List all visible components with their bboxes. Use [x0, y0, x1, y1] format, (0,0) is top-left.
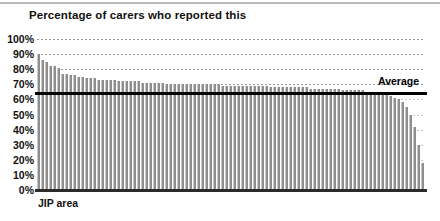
x-axis-baseline — [35, 189, 427, 192]
bar — [169, 84, 172, 190]
bar — [397, 99, 400, 190]
bar — [341, 90, 344, 190]
bar — [369, 92, 372, 190]
bar — [313, 89, 316, 190]
chart-title: Percentage of carers who reported this — [29, 9, 246, 21]
top-divider — [0, 2, 440, 4]
bar — [361, 90, 364, 190]
bar — [245, 86, 248, 190]
bar — [289, 87, 292, 190]
bar — [285, 87, 288, 190]
bar — [85, 78, 88, 190]
bar — [321, 89, 324, 190]
bar — [301, 87, 304, 190]
bar — [141, 83, 144, 190]
bar — [241, 86, 244, 190]
y-tick-10: 10% — [0, 169, 34, 181]
bar — [353, 90, 356, 190]
bar — [113, 80, 116, 190]
bar — [409, 115, 412, 191]
bar — [345, 90, 348, 190]
bar — [413, 127, 416, 190]
bar — [129, 81, 132, 190]
bar — [117, 81, 120, 190]
bar — [49, 66, 52, 190]
bar — [333, 89, 336, 190]
bar — [161, 83, 164, 190]
y-tick-30: 30% — [0, 139, 34, 151]
y-tick-90: 90% — [0, 48, 34, 60]
bar — [205, 84, 208, 190]
bar — [53, 66, 56, 190]
bar — [101, 80, 104, 190]
y-tick-0: 0% — [0, 184, 34, 196]
bar — [157, 83, 160, 190]
bar — [229, 86, 232, 190]
bar — [145, 83, 148, 190]
y-tick-70: 70% — [0, 78, 34, 90]
bar — [125, 81, 128, 190]
bar — [389, 96, 392, 190]
bar — [277, 87, 280, 190]
bar — [41, 60, 44, 190]
bar — [249, 86, 252, 190]
bar — [165, 84, 168, 190]
average-label: Average — [378, 75, 419, 87]
bar — [325, 89, 328, 190]
bar — [401, 102, 404, 190]
bar — [57, 68, 60, 190]
bar — [421, 163, 424, 190]
bar — [217, 84, 220, 190]
bar — [305, 87, 308, 190]
bar — [381, 93, 384, 190]
bar — [293, 87, 296, 190]
bar — [265, 86, 268, 190]
bar — [297, 87, 300, 190]
bar — [357, 90, 360, 190]
bar — [349, 90, 352, 190]
bar — [109, 80, 112, 190]
bar — [309, 89, 312, 190]
x-axis-title: JIP area — [38, 197, 78, 209]
bar — [257, 86, 260, 190]
bar — [225, 86, 228, 190]
bar — [261, 86, 264, 190]
bar — [137, 81, 140, 190]
bar — [337, 89, 340, 190]
bar — [269, 87, 272, 190]
bar — [273, 87, 276, 190]
bar — [153, 83, 156, 190]
bar — [365, 92, 368, 190]
bar — [133, 81, 136, 190]
bar — [173, 84, 176, 190]
bar — [405, 107, 408, 190]
y-tick-80: 80% — [0, 63, 34, 75]
bar — [89, 78, 92, 190]
bar — [93, 78, 96, 190]
bar — [105, 80, 108, 190]
bar — [233, 86, 236, 190]
bar — [97, 80, 100, 190]
bar — [221, 86, 224, 190]
y-tick-100: 100% — [0, 33, 34, 45]
bar — [329, 89, 332, 190]
chart-page: Percentage of carers who reported this 1… — [0, 0, 440, 221]
bar — [377, 93, 380, 190]
bar — [181, 84, 184, 190]
bar-series — [37, 39, 425, 190]
bar — [197, 84, 200, 190]
average-line — [35, 92, 427, 95]
bar — [201, 84, 204, 190]
bar — [393, 98, 396, 190]
y-tick-20: 20% — [0, 154, 34, 166]
y-tick-40: 40% — [0, 124, 34, 136]
bar — [149, 83, 152, 190]
bar — [209, 84, 212, 190]
bar — [189, 84, 192, 190]
y-axis-tick-labels: 100%90%80%70%60%50%40%30%20%10%0% — [0, 0, 34, 221]
bar — [385, 95, 388, 190]
bar — [213, 84, 216, 190]
bar — [177, 84, 180, 190]
bar — [37, 54, 40, 190]
bar — [317, 89, 320, 190]
